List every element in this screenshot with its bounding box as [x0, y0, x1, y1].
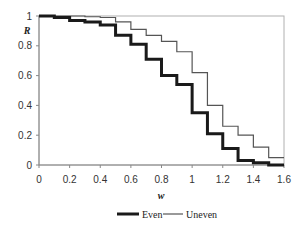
x-tick-label: 0.6	[124, 174, 138, 185]
y-tick-label: 0.2	[18, 130, 32, 141]
y-tick-label: 0.6	[18, 70, 32, 81]
legend-item-even: Even	[117, 209, 163, 220]
x-axis: 00.20.40.60.811.21.41.6	[36, 165, 291, 185]
x-tick-label: 1.6	[277, 174, 291, 185]
x-tick-label: 1	[189, 174, 195, 185]
series-line-uneven	[39, 16, 284, 158]
x-tick-label: 1.2	[216, 174, 230, 185]
y-tick-label: 0.4	[18, 100, 32, 111]
x-axis-label: w	[158, 190, 165, 201]
x-tick-label: 0.2	[63, 174, 77, 185]
step-line-chart: 00.20.40.60.81 00.20.40.60.811.21.41.6 R…	[0, 0, 305, 229]
series-layer	[39, 16, 284, 165]
y-tick-label: 1	[26, 11, 32, 22]
legend-label-even: Even	[142, 209, 163, 220]
x-tick-label: 1.4	[246, 174, 260, 185]
legend-item-uneven: Uneven	[163, 209, 217, 220]
y-tick-label: 0	[26, 160, 32, 171]
legend-label-uneven: Uneven	[186, 209, 217, 220]
y-tick-label: 0.8	[18, 40, 32, 51]
legend: Even Uneven	[117, 209, 217, 220]
x-tick-label: 0.4	[93, 174, 107, 185]
y-axis-label: R	[23, 25, 31, 36]
x-tick-label: 0	[36, 174, 42, 185]
x-tick-label: 0.8	[155, 174, 169, 185]
